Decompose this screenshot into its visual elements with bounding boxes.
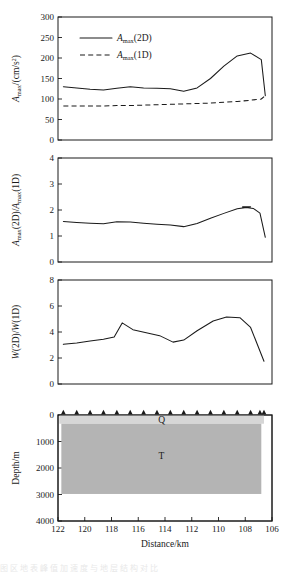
panel-3: 02468 xyxy=(50,275,273,389)
panel-1: 050100150200250300 xyxy=(41,12,273,145)
x-tick-label: 120 xyxy=(78,524,92,534)
figure-container: 0501001502002503000123402468010002000300… xyxy=(0,0,291,572)
panel-2: 01234 xyxy=(50,153,273,267)
x-tick-label: 118 xyxy=(105,524,119,534)
series-amax-1d xyxy=(63,96,265,106)
panel-3-y-axis-label: W(2D)/W(1D) xyxy=(11,305,22,359)
station-marker xyxy=(168,410,173,415)
figure-caption-fragment: 图 区 地 表 峰 值 加 速 度 与 地 层 结 构 对 比 xyxy=(0,564,291,572)
y-tick-label: 100 xyxy=(41,94,55,104)
panel-1-y-axis-label: Amax/(cm/s2) xyxy=(10,55,22,103)
station-marker xyxy=(61,410,66,415)
x-tick-label: 114 xyxy=(158,524,172,534)
x-tick-label: 112 xyxy=(185,524,198,534)
y-tick-label: 3000 xyxy=(36,490,55,500)
layer-label-T: T xyxy=(158,451,164,461)
panel-3-frame xyxy=(58,280,272,384)
y-tick-label: 2000 xyxy=(36,463,55,473)
x-tick-label: 108 xyxy=(239,524,253,534)
legend-label-Amax(2D): Amax(2D) xyxy=(116,33,152,44)
series-amax-2d xyxy=(63,53,265,96)
station-marker xyxy=(128,410,133,415)
y-tick-label: 2 xyxy=(50,205,55,215)
x-tick-label: 116 xyxy=(132,524,146,534)
legend-label-Amax(1D): Amax(1D) xyxy=(116,50,152,61)
station-marker xyxy=(74,410,79,415)
y-tick-label: 4 xyxy=(50,153,55,163)
panel-2-y-axis-label: Amax(2D)/Amax(1D) xyxy=(11,174,22,247)
station-marker xyxy=(155,410,160,415)
layer-label-Q: Q xyxy=(158,415,165,425)
y-tick-label: 3 xyxy=(50,179,55,189)
y-tick-label: 8 xyxy=(50,275,55,285)
y-tick-label: 0 xyxy=(50,379,55,389)
station-marker xyxy=(181,410,186,415)
station-marker xyxy=(114,410,119,415)
station-marker xyxy=(208,410,213,415)
station-marker xyxy=(258,410,263,415)
y-tick-label: 2 xyxy=(50,353,55,363)
y-tick-label: 300 xyxy=(41,12,55,22)
y-tick-label: 0 xyxy=(50,410,55,420)
y-tick-label: 1 xyxy=(50,231,55,241)
x-tick-label: 106 xyxy=(265,524,279,534)
panel-2-curves xyxy=(63,207,265,237)
y-tick-label: 0 xyxy=(50,257,55,267)
y-tick-label: 6 xyxy=(50,301,55,311)
y-tick-label: 0 xyxy=(50,135,55,145)
station-marker xyxy=(101,410,106,415)
panel-1-curves xyxy=(63,53,265,106)
panel-1-frame xyxy=(58,17,272,140)
station-marker xyxy=(195,410,200,415)
x-axis-label: Distance/km xyxy=(141,539,190,549)
y-tick-label: 50 xyxy=(45,115,55,125)
x-tick-label: 110 xyxy=(212,524,226,534)
station-marker xyxy=(221,410,226,415)
panel-4-y-axis-label: Depth/m xyxy=(11,451,21,485)
panel-1-legend: Amax(2D)Amax(1D) xyxy=(80,33,152,61)
station-marker xyxy=(262,410,267,415)
panel-4-geology: QT xyxy=(58,410,272,521)
series-amplification-ratio xyxy=(63,207,265,237)
multi-panel-figure: 0501001502002503000123402468010002000300… xyxy=(0,0,291,572)
station-marker xyxy=(248,410,253,415)
y-tick-label: 200 xyxy=(41,53,55,63)
x-tick-label: 122 xyxy=(51,524,65,534)
station-marker xyxy=(141,410,146,415)
panel-3-curves xyxy=(63,317,264,361)
y-tick-label: 1000 xyxy=(36,437,55,447)
panel-2-frame xyxy=(58,158,272,262)
station-marker xyxy=(88,410,93,415)
y-tick-label: 150 xyxy=(41,74,55,84)
series-width-ratio xyxy=(63,317,264,361)
y-tick-label: 4 xyxy=(50,327,55,337)
station-marker xyxy=(235,410,240,415)
x-axis: 122120118116114112110108106Distance/km xyxy=(51,517,279,549)
y-tick-label: 250 xyxy=(41,33,55,43)
